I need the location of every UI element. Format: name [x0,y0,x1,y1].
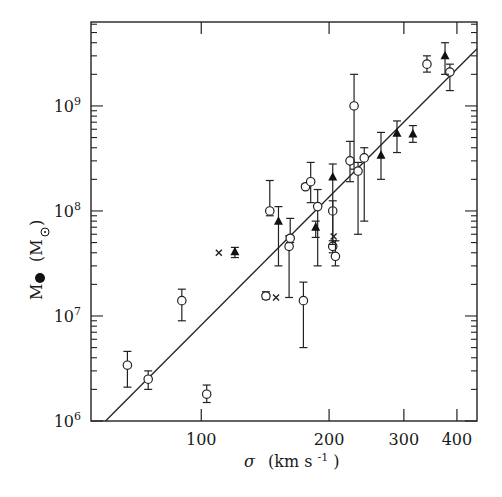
data-point [376,132,385,179]
y-axis-units-close: ) [27,220,46,226]
data-point [273,294,279,300]
data-point [178,289,186,321]
data-point [423,56,431,72]
data-point [274,207,283,266]
data-point [123,351,131,387]
y-tick-label: 108 [54,200,81,221]
data-point [286,218,294,242]
open-circle-marker [446,68,454,76]
svg-text:(M: (M [27,239,46,262]
open-circle-marker [313,202,321,210]
data-point [203,385,211,402]
x-axis-units-close: ) [333,452,339,471]
open-circle-marker [144,375,152,383]
x-tick-label: 300 [389,430,420,449]
open-circle-marker [262,292,270,300]
y-axis-label: M (M ) [27,220,49,300]
y-axis-units-open: (M [27,239,46,262]
open-circle-marker [350,102,358,110]
open-circle-marker [123,361,131,369]
data-point [354,162,362,234]
y-axis-main: M [27,284,46,300]
data-point [144,371,152,389]
x-axis-ticks: 100200300400 [186,22,472,449]
triangle-marker [328,172,337,181]
cross-marker [216,250,222,256]
data-point [328,164,337,244]
data-point [350,74,358,169]
y-axis-ticks: 106107108109 [54,24,477,431]
open-circle-marker [285,242,293,250]
open-circle-marker [360,154,368,162]
data-points [123,43,454,403]
open-circle-marker [346,157,354,165]
data-point [266,181,274,216]
open-circle-marker [286,234,294,242]
triangle-marker [274,216,283,225]
data-point [299,282,307,347]
cross-marker [273,294,279,300]
plot-border [91,22,477,421]
y-tick-label: 109 [54,95,81,116]
plot-frame [91,22,477,421]
x-axis-label: σ (km s -1 ) [244,446,340,471]
open-circle-marker [266,207,274,215]
svg-text:): ) [27,220,46,226]
x-tick-label: 400 [442,430,473,449]
open-circle-marker [203,390,211,398]
data-point [230,247,239,258]
open-circle-marker [423,60,431,68]
open-circle-marker [306,177,314,185]
data-point [446,64,454,90]
data-point [285,236,293,298]
triangle-marker [441,51,450,60]
x-axis-units: (km s [268,452,312,471]
data-point [262,292,270,300]
open-circle-marker [299,296,307,304]
data-point [216,250,222,256]
black-hole-dot-icon [35,273,45,283]
data-point [311,221,320,237]
open-circle-marker [354,167,362,175]
y-tick-label: 106 [54,410,81,431]
y-tick-label: 107 [54,305,81,326]
open-circle-marker [331,252,339,260]
sun-symbol-icon [41,228,49,236]
chart: 100200300400 106107108109 σ (km s -1 ) M… [0,0,502,497]
data-point [408,126,417,143]
data-point [360,148,368,221]
data-point [331,234,337,240]
data-point [306,162,314,202]
x-tick-label: 100 [186,430,217,449]
triangle-marker [408,129,417,138]
svg-text:M: M [27,284,46,300]
triangle-marker [311,222,320,231]
data-point [346,141,354,181]
open-circle-marker [178,296,186,304]
x-axis-units-exp: -1 [318,451,329,464]
triangle-marker [376,150,385,159]
x-axis-symbol: σ [244,452,256,471]
cross-marker [331,234,337,240]
